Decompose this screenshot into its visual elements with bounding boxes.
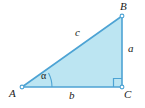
side-label-c: c <box>75 27 80 38</box>
side-label-a: a <box>128 43 134 54</box>
vertex-label-a: A <box>9 88 16 99</box>
vertex-label-c: C <box>124 89 131 100</box>
vertex-point-b <box>120 14 124 18</box>
side-label-b: b <box>69 90 75 101</box>
angle-label-alpha: α <box>41 71 46 81</box>
geometry-figure: A B C a b c α <box>0 0 145 108</box>
vertex-point-a <box>20 85 24 89</box>
vertex-label-b: B <box>120 1 127 12</box>
